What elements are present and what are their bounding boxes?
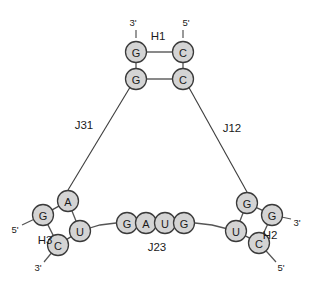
h2-g-upper-left-label: G [243, 198, 252, 210]
helix-h3-terminus-5prime: 5' [11, 224, 18, 235]
h3-u-lower-right-label: U [76, 226, 84, 238]
helix-h3-terminus-3prime: 3' [34, 262, 41, 273]
j23-g-4-label: G [180, 218, 189, 230]
h1-g-lower-left-label: G [132, 74, 141, 86]
junction-lines-group [68, 84, 247, 192]
h1-c-lower-right-label: C [179, 74, 187, 86]
rna-structure-figure: GCGC3'5'H1GGUC3'5'H2AGUC5'3'H3GAUGJ23J31… [0, 0, 314, 284]
helix-h2-basepair-1 [245, 236, 249, 238]
helix-h2-backbone-0 [240, 213, 243, 221]
helix-h3: AGUC5'3'H3 [11, 191, 90, 273]
helix-label-h1: H1 [151, 30, 166, 42]
helix-h2-basepair-0 [256, 208, 262, 211]
junction-label-j12: J12 [223, 122, 242, 134]
helix-h1: GCGC3'5'H1 [126, 17, 194, 90]
h2-u-lower-left-label: U [232, 226, 240, 238]
j23-u-3-label: U [161, 218, 169, 230]
loop-j23: GAUGJ23 [117, 213, 195, 254]
h2-g-upper-right-label: G [268, 210, 277, 222]
helix-h2-terminus-5prime: 5' [277, 262, 284, 273]
helix-h1-terminus-3prime: 3' [129, 17, 136, 28]
junction-line-j31 [68, 84, 132, 190]
helix-h3-basepair-0 [52, 206, 59, 210]
junction-line-j12 [187, 84, 247, 192]
j23-g-1-label: G [123, 218, 132, 230]
helix-h1-terminus-5prime: 5' [182, 17, 189, 28]
helix-label-h3: H3 [38, 234, 53, 246]
rna-diagram-canvas: GCGC3'5'H1GGUC3'5'H2AGUC5'3'H3GAUGJ23J31… [0, 0, 314, 284]
helix-h2: GGUC3'5'H2 [226, 193, 301, 273]
h1-g-upper-left-label: G [132, 47, 141, 59]
h3-c-lower-left-label: C [54, 240, 62, 252]
helix-h3-basepair-1 [67, 237, 71, 240]
h3-a-upper-right-label: A [64, 196, 72, 208]
helix-h2-terminus-3prime: 3' [293, 217, 300, 228]
junction-label-j31: J31 [75, 119, 94, 131]
loop-label-j23: J23 [148, 241, 167, 253]
h3-g-upper-left-label: G [39, 210, 48, 222]
helix-label-h2: H2 [263, 229, 278, 241]
helix-h3-backbone-1 [72, 211, 76, 222]
j23-a-2-label: A [142, 218, 150, 230]
h1-c-upper-right-label: C [179, 47, 187, 59]
